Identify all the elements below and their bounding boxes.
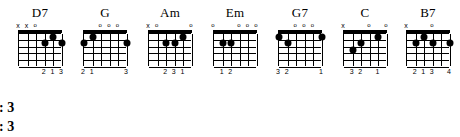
fingering-digit: 2 xyxy=(163,68,167,76)
fretboard xyxy=(278,30,322,67)
string-line xyxy=(257,34,258,66)
open-string-icon: o xyxy=(189,22,192,29)
fingering-digit: 1 xyxy=(180,68,184,76)
fingering-digit: 1 xyxy=(421,68,425,76)
finger-dot xyxy=(421,33,428,40)
fret-line xyxy=(279,60,321,61)
muted-string-icon: x xyxy=(146,22,150,29)
fingering-digit: 3 xyxy=(59,68,63,76)
fingering-digit: 3 xyxy=(430,68,434,76)
fingering-digit: 2 xyxy=(285,68,289,76)
fretboard xyxy=(343,30,387,67)
fingering-digit: 1 xyxy=(319,68,323,76)
fret-line xyxy=(84,40,126,41)
finger-dot xyxy=(349,47,356,54)
fretboard xyxy=(18,30,62,67)
finger-dot xyxy=(276,33,283,40)
fingering-digit: 1 xyxy=(90,68,94,76)
pattern-line: Pattern: 3 xyxy=(0,117,284,136)
fret-line xyxy=(19,60,61,61)
chord-diagram: Cxoo321 xyxy=(333,6,397,78)
fret-line xyxy=(407,47,449,48)
finger-dot xyxy=(284,40,291,47)
string-line xyxy=(192,34,193,66)
fret-grid xyxy=(213,33,256,66)
finger-dot xyxy=(219,40,226,47)
string-markers: xoo xyxy=(343,22,387,30)
open-string-icon: o xyxy=(116,22,119,29)
fret-line xyxy=(19,53,61,54)
finger-dot xyxy=(171,40,178,47)
fret-grid xyxy=(343,33,386,66)
finger-dot xyxy=(228,40,235,47)
open-string-icon: o xyxy=(34,22,37,29)
finger-dot xyxy=(319,33,326,40)
finger-dot xyxy=(447,40,454,47)
open-string-icon: o xyxy=(302,22,305,29)
chord-diagram-row: D7xxo213Gooo213Amxoo231Emoooo12G7ooo321C… xyxy=(0,0,460,84)
pattern-notes: Pattern: 3Pattern: 3 xyxy=(0,98,284,136)
string-line xyxy=(62,34,63,66)
fret-line xyxy=(279,47,321,48)
string-markers: ooo xyxy=(278,22,322,30)
finger-dot xyxy=(412,40,419,47)
finger-dot xyxy=(50,33,57,40)
chord-diagram: G7ooo321 xyxy=(268,6,332,78)
fingering-digit: 4 xyxy=(447,68,451,76)
fret-line xyxy=(214,53,256,54)
string-markers: xxo xyxy=(18,22,62,30)
fingering-row: 231 xyxy=(145,68,195,78)
fret-line xyxy=(149,53,191,54)
fret-line xyxy=(84,53,126,54)
finger-dot xyxy=(124,40,131,47)
fingering-row: 321 xyxy=(340,68,390,78)
finger-dot xyxy=(358,40,365,47)
fret-grid xyxy=(18,33,61,66)
string-markers: ooo xyxy=(83,22,127,30)
string-line xyxy=(127,34,128,66)
fret-grid xyxy=(148,33,191,66)
fingering-digit: 2 xyxy=(413,68,417,76)
fingering-row: 213 xyxy=(15,68,65,78)
open-string-icon: o xyxy=(294,22,297,29)
fingering-digit: 2 xyxy=(42,68,46,76)
finger-dot xyxy=(89,33,96,40)
fret-line xyxy=(214,47,256,48)
open-string-icon: o xyxy=(237,22,240,29)
open-string-icon: o xyxy=(430,22,433,29)
fingering-row: 213 xyxy=(80,68,130,78)
fretboard xyxy=(213,30,257,67)
fingering-digit: 2 xyxy=(81,68,85,76)
fret-grid xyxy=(278,33,321,66)
muted-string-icon: x xyxy=(404,22,408,29)
fingering-digit: 3 xyxy=(124,68,128,76)
string-markers: xo xyxy=(406,22,450,30)
chord-diagram: Emoooo12 xyxy=(203,6,267,78)
open-string-icon: o xyxy=(107,22,110,29)
chord-diagram: Gooo213 xyxy=(73,6,137,78)
chord-diagram: D7xxo213 xyxy=(8,6,72,78)
finger-dot xyxy=(163,40,170,47)
chord-name: G7 xyxy=(268,6,332,21)
fret-line xyxy=(84,47,126,48)
fret-line xyxy=(84,60,126,61)
muted-string-icon: x xyxy=(341,22,345,29)
open-string-icon: o xyxy=(384,22,387,29)
fret-line xyxy=(214,60,256,61)
fret-line xyxy=(344,60,386,61)
fingering-digit: 3 xyxy=(276,68,280,76)
muted-string-icon: x xyxy=(25,22,29,29)
fret-line xyxy=(344,40,386,41)
fingering-digit: 3 xyxy=(350,68,354,76)
fingering-digit: 2 xyxy=(228,68,232,76)
muted-string-icon: x xyxy=(16,22,20,29)
open-string-icon: o xyxy=(155,22,158,29)
fingering-digit: 1 xyxy=(50,68,54,76)
finger-dot xyxy=(81,40,88,47)
fret-grid xyxy=(83,33,126,66)
fingering-row: 321 xyxy=(275,68,325,78)
fretboard xyxy=(148,30,192,67)
fingering-digit: 2 xyxy=(358,68,362,76)
chord-diagram: Amxoo231 xyxy=(138,6,202,78)
string-markers: oooo xyxy=(213,22,257,30)
